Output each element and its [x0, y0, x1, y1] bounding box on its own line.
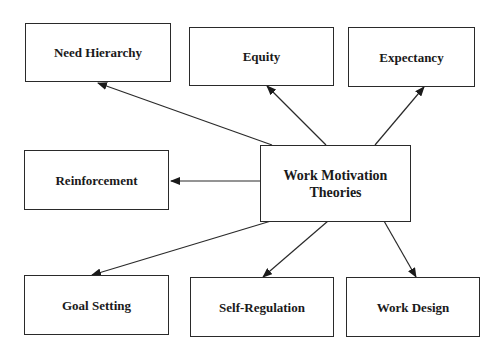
node-reinforcement: Reinforcement	[24, 150, 169, 210]
arrow-to-equity	[267, 86, 326, 145]
node-expectancy: Expectancy	[348, 27, 475, 87]
arrow-to-self-regulation	[263, 221, 328, 277]
arrow-to-goal-setting	[92, 221, 271, 275]
arrow-to-need-hierarchy	[98, 83, 272, 145]
node-goal-setting: Goal Setting	[24, 275, 169, 335]
node-self-regulation: Self-Regulation	[190, 277, 334, 337]
node-label: Need Hierarchy	[54, 44, 142, 61]
node-label: Work Design	[377, 299, 450, 316]
center-label-line2: Theories	[309, 184, 361, 201]
node-label: Goal Setting	[62, 297, 131, 314]
center-label-line1: Work Motivation	[284, 167, 388, 184]
node-label: Self-Regulation	[219, 299, 305, 316]
node-work-design: Work Design	[346, 277, 480, 337]
node-label: Expectancy	[379, 49, 443, 66]
arrow-to-expectancy	[375, 87, 424, 145]
node-label: Equity	[243, 48, 281, 65]
node-need-hierarchy: Need Hierarchy	[25, 23, 171, 82]
node-equity: Equity	[189, 27, 334, 86]
arrow-to-work-design	[384, 221, 416, 277]
node-label: Reinforcement	[55, 172, 137, 189]
node-work-motivation-theories: Work Motivation Theories	[260, 145, 411, 222]
